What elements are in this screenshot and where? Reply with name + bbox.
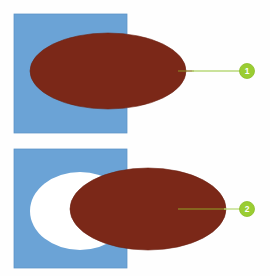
brown-ellipse bbox=[30, 33, 186, 109]
figure-container: 1 2 bbox=[0, 0, 270, 276]
lower-panel-graphic: 2 bbox=[0, 138, 270, 276]
callout-1-label: 1 bbox=[245, 66, 250, 76]
upper-panel: 1 bbox=[0, 0, 270, 138]
callout-2-label: 2 bbox=[245, 204, 250, 214]
upper-panel-graphic: 1 bbox=[0, 0, 270, 138]
lower-panel: 2 bbox=[0, 138, 270, 276]
